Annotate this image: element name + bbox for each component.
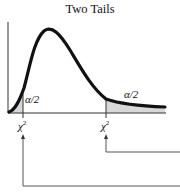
right-arrow-head-icon bbox=[104, 134, 108, 139]
left-critical-label: χ2 bbox=[17, 119, 27, 132]
left-tail-label: α/2 bbox=[25, 93, 40, 105]
left-arrow-head-icon bbox=[21, 134, 25, 139]
chi-square-diagram: α/2 α/2 χ2 χ2 bbox=[0, 0, 180, 194]
right-critical-label: χ2 bbox=[100, 119, 110, 132]
right-leader-arrow bbox=[106, 137, 180, 152]
left-leader-arrow bbox=[23, 137, 180, 186]
right-tail-label: α/2 bbox=[124, 88, 139, 100]
